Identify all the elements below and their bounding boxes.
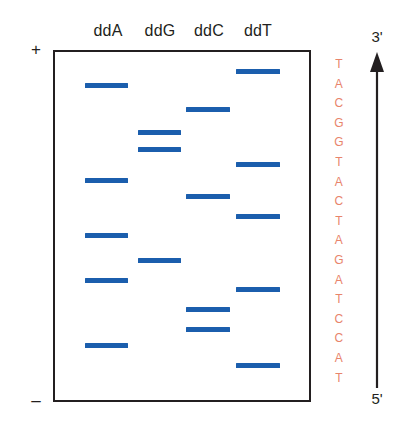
sequence-base-3: C (330, 94, 348, 114)
band-ddt-5 (236, 363, 280, 368)
sequence-base-6: T (330, 153, 348, 173)
band-ddg-1 (138, 130, 181, 135)
sequence-base-10: A (330, 231, 348, 251)
band-dda-1 (85, 83, 128, 88)
sequence-base-15: C (330, 329, 348, 349)
sequence-base-2: A (330, 75, 348, 95)
gel-box (53, 50, 311, 402)
sequence-base-17: T (330, 369, 348, 389)
sequence-base-7: A (330, 173, 348, 193)
band-ddc-3 (186, 307, 230, 312)
band-ddg-3 (138, 258, 181, 263)
band-ddt-3 (236, 214, 280, 219)
arrow-up-icon (357, 52, 397, 388)
sequence-base-16: A (330, 349, 348, 369)
sequence-column: TACGGTACTAGATCCAT (330, 55, 348, 388)
band-dda-3 (85, 233, 128, 238)
sequence-base-1: T (330, 55, 348, 75)
band-ddt-2 (236, 162, 280, 167)
band-ddt-1 (236, 69, 280, 74)
five-prime-label: 5' (357, 390, 397, 407)
sequence-base-4: G (330, 114, 348, 134)
lane-label-ddt: ddT (228, 22, 288, 40)
sequence-base-11: G (330, 251, 348, 271)
band-ddg-2 (138, 147, 181, 152)
three-prime-label: 3' (357, 28, 397, 45)
sequence-base-8: C (330, 192, 348, 212)
sequence-base-12: A (330, 271, 348, 291)
band-ddc-1 (186, 107, 230, 112)
band-dda-2 (85, 178, 128, 183)
band-ddc-4 (186, 327, 230, 332)
sequence-base-5: G (330, 133, 348, 153)
polarity-negative-label: – (27, 392, 45, 409)
band-ddc-2 (186, 194, 230, 199)
sequence-base-9: T (330, 212, 348, 232)
direction-arrow-group: 3' 5' (357, 28, 397, 410)
polarity-positive-label: + (27, 41, 45, 58)
band-ddt-4 (236, 287, 280, 292)
lane-label-dda: ddA (78, 22, 138, 40)
sequence-base-13: T (330, 290, 348, 310)
band-dda-5 (85, 343, 128, 348)
sequencing-gel-figure: ddAddGddCddT + – TACGGTACTAGATCCAT 3' 5' (0, 0, 404, 427)
band-dda-4 (85, 278, 128, 283)
sequence-base-14: C (330, 310, 348, 330)
